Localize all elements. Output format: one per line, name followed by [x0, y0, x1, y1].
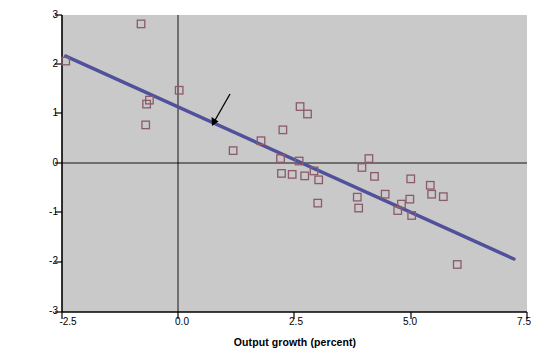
- y-tick-marks: [55, 15, 62, 312]
- plot-area-background: [62, 15, 527, 312]
- plot-canvas: [0, 0, 552, 359]
- chart-figure: Change in the unemployment rate (percent…: [0, 0, 552, 359]
- x-tick-marks: [62, 312, 527, 319]
